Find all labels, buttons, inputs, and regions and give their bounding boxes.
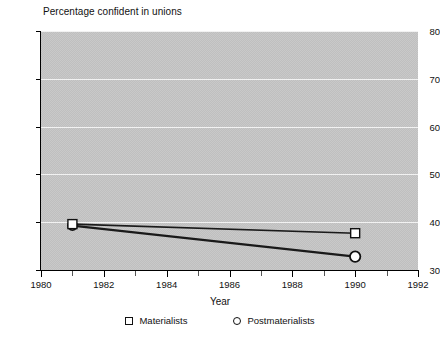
x-tick-label-1990: 1990	[345, 279, 366, 290]
postmaterialists-line	[72, 226, 355, 257]
x-tick-label-1988: 1988	[282, 279, 303, 290]
y-tick-label-50: 50	[408, 169, 440, 180]
x-tick-1982	[104, 271, 105, 277]
x-tick-1985	[198, 271, 199, 276]
x-axis-title: Year	[0, 296, 440, 307]
y-tick-label-80: 80	[408, 26, 440, 37]
x-tick-label-1984: 1984	[156, 279, 177, 290]
plot-area	[41, 31, 418, 270]
x-tick-1992	[418, 271, 419, 277]
marker-materialists-1990	[351, 229, 360, 238]
y-tick-label-70: 70	[408, 73, 440, 84]
y-tick-label-30: 30	[408, 265, 440, 276]
y-tick-70	[36, 79, 41, 80]
x-tick-1981	[72, 271, 73, 276]
line-chart: Percentage confident in unions 80 70 60 …	[0, 0, 440, 340]
marker-materialists-1981	[68, 220, 77, 229]
x-tick-1991	[387, 271, 388, 276]
x-tick-1980	[41, 271, 42, 277]
x-tick-1984	[167, 271, 168, 277]
y-axis-line	[40, 31, 41, 271]
circle-marker-icon	[233, 317, 241, 325]
legend-item-postmaterialists: Postmaterialists	[233, 315, 314, 326]
x-tick-1990	[355, 271, 356, 277]
y-tick-50	[36, 174, 41, 175]
materialists-line	[72, 224, 355, 233]
square-marker-icon	[125, 317, 133, 325]
x-tick-1983	[135, 271, 136, 276]
y-tick-40	[36, 222, 41, 223]
x-tick-label-1986: 1986	[219, 279, 240, 290]
chart-legend: Materialists Postmaterialists	[0, 315, 440, 326]
x-tick-1988	[292, 271, 293, 277]
y-tick-60	[36, 127, 41, 128]
y-tick-label-40: 40	[408, 217, 440, 228]
chart-title: Percentage confident in unions	[43, 6, 182, 17]
x-tick-label-1982: 1982	[93, 279, 114, 290]
x-tick-label-1992: 1992	[407, 279, 428, 290]
series-lines	[41, 31, 418, 270]
marker-postmaterialists-1990	[350, 251, 360, 261]
y-tick-80	[36, 31, 41, 32]
legend-item-materialists: Materialists	[125, 315, 187, 326]
x-tick-1987	[261, 271, 262, 276]
x-tick-1989	[324, 271, 325, 276]
legend-label-materialists: Materialists	[139, 315, 187, 326]
x-tick-label-1980: 1980	[30, 279, 51, 290]
legend-label-postmaterialists: Postmaterialists	[247, 315, 314, 326]
y-tick-label-60: 60	[408, 121, 440, 132]
x-tick-1986	[230, 271, 231, 277]
